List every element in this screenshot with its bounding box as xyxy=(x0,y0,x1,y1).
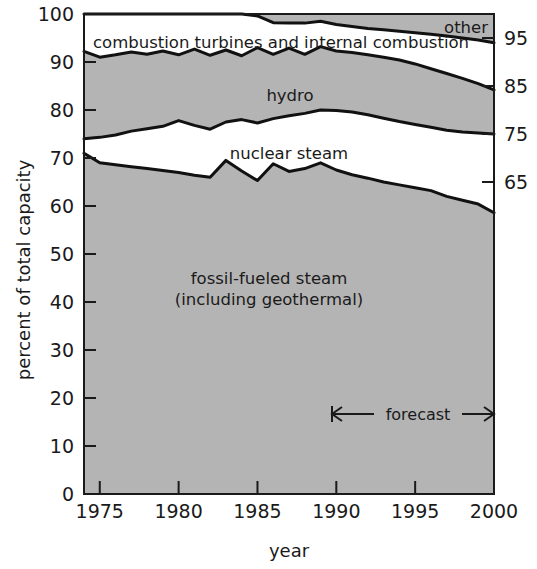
area-band-0 xyxy=(84,153,494,494)
y-axis-tick-labels: 0102030405060708090100 xyxy=(38,3,74,505)
band-label-nuclear: nuclear steam xyxy=(230,144,348,163)
x-tick-label-2000: 2000 xyxy=(470,500,518,522)
y-right-tick-label-65: 65 xyxy=(504,171,528,193)
y-tick-label-100: 100 xyxy=(38,3,74,25)
y-tick-label-50: 50 xyxy=(50,243,74,265)
chart-container: 0102030405060708090100 65758595 19751980… xyxy=(0,0,537,569)
y-axis-title: percent of total capacity xyxy=(13,159,34,380)
x-axis-title: year xyxy=(269,540,310,561)
band-label-fossil-line1: fossil-fueled steam xyxy=(191,269,348,288)
y-tick-label-60: 60 xyxy=(50,195,74,217)
x-tick-label-1990: 1990 xyxy=(312,500,360,522)
x-tick-label-1980: 1980 xyxy=(154,500,202,522)
y-tick-label-90: 90 xyxy=(50,51,74,73)
y-tick-label-40: 40 xyxy=(50,291,74,313)
y-right-tick-label-95: 95 xyxy=(504,27,528,49)
y-right-tick-label-75: 75 xyxy=(504,123,528,145)
y-tick-label-20: 20 xyxy=(50,387,74,409)
x-tick-label-1975: 1975 xyxy=(76,500,124,522)
y-right-tick-label-85: 85 xyxy=(504,75,528,97)
x-tick-label-1985: 1985 xyxy=(233,500,281,522)
y-axis-right-tick-labels: 65758595 xyxy=(504,27,528,193)
y-tick-label-30: 30 xyxy=(50,339,74,361)
band-label-hydro: hydro xyxy=(266,86,313,105)
band-label-fossil-line2: (including geothermal) xyxy=(175,290,363,309)
forecast-label: forecast xyxy=(386,405,451,424)
y-tick-label-80: 80 xyxy=(50,99,74,121)
x-axis-tick-labels: 197519801985199019952000 xyxy=(76,500,519,522)
y-tick-label-70: 70 xyxy=(50,147,74,169)
x-tick-label-1995: 1995 xyxy=(391,500,439,522)
band-label-combustion: combustion turbines and internal combust… xyxy=(93,33,469,52)
y-tick-label-10: 10 xyxy=(50,435,74,457)
y-tick-label-0: 0 xyxy=(62,483,74,505)
stacked-area-chart: 0102030405060708090100 65758595 19751980… xyxy=(0,0,537,569)
band-label-other: other xyxy=(444,18,488,37)
